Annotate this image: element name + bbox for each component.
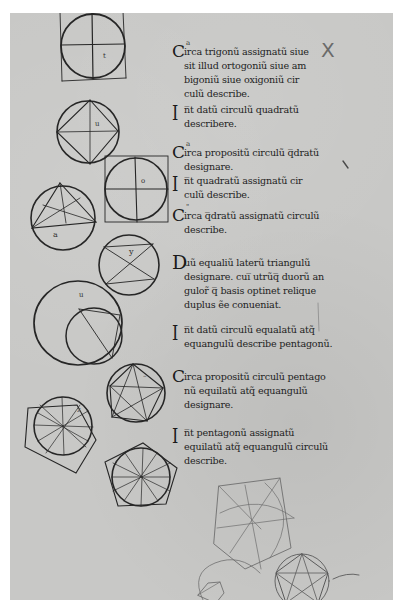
- text-line: equangulũ describe pentagonũ.: [172, 337, 372, 351]
- text-line: describe.: [172, 223, 372, 237]
- proposition-5: C " irca q̅dratũ assignatũ circulũ de…: [172, 209, 372, 237]
- text-line: n̅t datũ circulũ equalatũ atq̃: [172, 323, 372, 337]
- faint-arc-sketch: [198, 560, 260, 600]
- proposition-7: I n̅t datũ circulũ equalatũ atq̃ equa…: [172, 323, 372, 351]
- text-line: n̅t quadratũ assignatũ cir: [172, 174, 372, 188]
- diagram-label-z: z: [77, 406, 81, 414]
- circle-in-pentagon-diagram-2: [105, 443, 177, 506]
- superscript-mark: ": [186, 200, 189, 214]
- diagram-label-o: o: [141, 177, 145, 185]
- text-line: sit illud ortogoniũ siue am: [172, 59, 372, 73]
- initial-letter: I: [172, 425, 178, 447]
- triangle-in-circle-diagram: [31, 183, 96, 250]
- superscript-mark: a: [186, 36, 190, 50]
- proposition-4: I n̅t quadratũ assignatũ cir culũ des…: [172, 174, 372, 202]
- text-line: irca propositũ circulũ q̅dratũ: [172, 146, 372, 160]
- diagram-label-t: t: [103, 52, 106, 60]
- text-line: describere.: [172, 117, 372, 131]
- text-line: describe.: [172, 454, 372, 468]
- text-line: uũ equaliũ laterũ triangulũ: [172, 256, 372, 270]
- circle-in-pentagon-diagram: [25, 397, 96, 473]
- text-line: designare. cui̅ utrũq̅ duorũ an: [172, 270, 372, 284]
- text-line: irca q̅dratũ assignatũ circulũ: [172, 209, 372, 223]
- text-line: irca propositũ circulũ pentago: [172, 370, 372, 384]
- text-line: culũ describe.: [172, 87, 372, 101]
- text-line: designare.: [172, 160, 372, 174]
- initial-letter: C: [172, 43, 185, 60]
- initial-letter: I: [172, 322, 178, 344]
- text-line: designare.: [172, 398, 372, 412]
- circle-in-square-diagram-2: [105, 156, 168, 222]
- manuscript-page: t u o a y u – z X C a irca trigonũ assi…: [10, 13, 393, 600]
- text-line: equilatũ atq̃ equangulũ circulũ: [172, 440, 372, 454]
- proposition-1: C a irca trigonũ assignatũ siue sit il…: [172, 45, 372, 101]
- faint-pentagon-sketch: [214, 478, 294, 569]
- initial-letter: I: [172, 173, 178, 195]
- tangent-circles-diagram: [34, 281, 122, 365]
- proposition-3: C a irca propositũ circulũ q̅dratũ de…: [172, 146, 372, 174]
- text-line: nũ equilatũ atq̃ equangulũ: [172, 384, 372, 398]
- proposition-2: I n̅t datũ circulũ quadratũ describer…: [172, 103, 372, 131]
- text-line: culũ describe.: [172, 188, 372, 202]
- faint-star-pentagon-sketch: [275, 554, 359, 600]
- crossed-chords-circle-diagram: [99, 235, 159, 295]
- diagram-label-a: a: [53, 230, 58, 239]
- initial-letter: C: [172, 207, 185, 224]
- text-line: irca trigonũ assignatũ siue: [172, 45, 372, 59]
- text-line: duplus ẽe conueniat.: [172, 298, 372, 312]
- proposition-8: C irca propositũ circulũ pentago nũ e…: [172, 370, 372, 412]
- superscript-mark: a: [186, 137, 190, 151]
- text-line: n̅t datũ circulũ quadratũ: [172, 103, 372, 117]
- initial-letter: C: [172, 144, 185, 161]
- circle-in-square-diagram: [60, 13, 126, 81]
- diagram-label-u: u: [95, 120, 100, 128]
- diagram-label-u2: u: [79, 291, 84, 299]
- text-line: n̅t pentagonũ assignatũ: [172, 426, 372, 440]
- initial-letter: C: [172, 368, 185, 385]
- square-in-circle-diagram: [57, 100, 119, 164]
- diagram-label-y: y: [129, 247, 134, 256]
- diagram-label-dash: –: [143, 372, 147, 380]
- initial-letter: D: [172, 254, 187, 271]
- proposition-6: D uũ equaliũ laterũ triangulũ design…: [172, 256, 372, 312]
- initial-letter: I: [172, 102, 178, 124]
- pentagon-in-circle-diagram: [107, 364, 165, 422]
- text-line: bigoniũ siue oxigoniũ cir: [172, 73, 372, 87]
- proposition-9: I n̅t pentagonũ assignatũ equilatũ at…: [172, 426, 372, 468]
- text-line: gulor̃ q̅ basis optinet relique: [172, 284, 372, 298]
